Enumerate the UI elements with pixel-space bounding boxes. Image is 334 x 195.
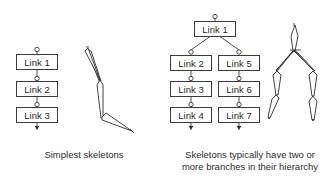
joint-icon [237,50,241,54]
joint-icon [35,102,39,106]
branch-connector-right [220,37,239,51]
joint-icon [237,76,241,80]
link-label: Link 2 [178,58,203,69]
joint-icon [189,102,193,106]
bone-thigh-left [273,71,281,95]
bone-spine [291,25,298,51]
chain-link-3: Link 3 [17,97,58,123]
bone-shin-left [268,95,279,118]
bone-thigh-right [309,71,317,96]
joint-icon [35,76,39,80]
branch-connector-left [191,37,210,51]
link-label: Link 3 [24,110,49,121]
chain-link-2: Link 2 [17,70,58,97]
caption-simple: Simplest skeletons [24,149,144,161]
end-effector-icon [130,129,134,133]
link-label: Link 6 [226,84,251,95]
link-label: Link 5 [226,58,251,69]
tree-link-5: Link 5 [219,50,260,71]
branched-hierarchy: Link 1 Link 2 Link 3 Link 4 Link 5 [171,14,260,128]
joint-icon [35,47,39,51]
joint-icon [213,14,217,18]
tree-link-3: Link 3 [171,71,212,97]
caption-branched-line1: Skeletons typically have two or [180,149,320,161]
joint-icon [189,50,193,54]
bone-hip-right [294,50,315,71]
tree-link-6: Link 6 [219,71,260,97]
tree-link-2: Link 2 [171,50,212,71]
link-label: Link 2 [24,84,49,95]
joint-icon [237,102,241,106]
tree-link-1: Link 1 [195,14,236,36]
link-label: Link 1 [202,24,227,35]
chain-link-1: Link 1 [17,47,58,69]
link-label: Link 3 [178,84,203,95]
link-label: Link 7 [226,110,251,121]
link-label: Link 1 [24,57,49,68]
bone-middle [97,80,103,118]
tree-link-4: Link 4 [171,97,212,123]
caption-branched-line2: more branches in their hierarchy [180,161,320,173]
joint-icon [189,76,193,80]
bone-lower [102,113,132,131]
simple-skeleton-figure [85,47,134,133]
simple-chain: Link 1 Link 2 Link 3 [17,47,58,128]
bone-shin-right [309,96,317,120]
tree-link-7: Link 7 [219,97,260,123]
branched-skeleton-figure [268,23,317,121]
link-label: Link 4 [178,110,203,121]
bone-upper-edge [85,48,100,80]
caption-branched: Skeletons typically have two or more bra… [180,149,320,173]
